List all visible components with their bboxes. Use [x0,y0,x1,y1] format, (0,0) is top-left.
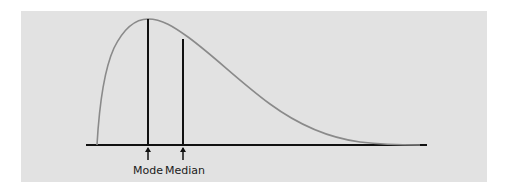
median-arrow-icon [180,147,186,160]
mode-arrow-icon [145,147,151,160]
median-label: Median [165,164,205,177]
skewed-distribution-diagram: Mode Median [0,0,509,193]
distribution-curve [97,19,420,145]
mode-label: Mode [133,164,163,177]
